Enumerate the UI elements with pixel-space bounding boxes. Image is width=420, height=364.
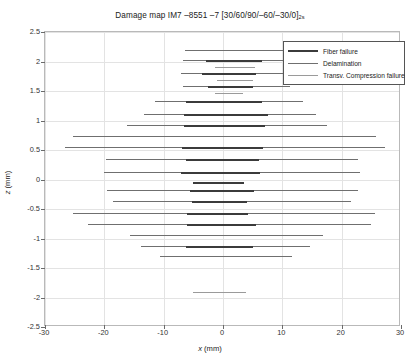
damage-segment-trans <box>215 67 255 68</box>
legend-swatch-icon <box>288 50 318 52</box>
y-axis-tick <box>41 239 45 240</box>
chart-title-text: Damage map IM7 –8551 –7 [30/60/90/–60/–3… <box>115 11 298 20</box>
damage-segment-fiber <box>208 86 253 88</box>
x-axis-title: x (mm) <box>0 344 420 353</box>
damage-segment-fiber <box>202 73 257 75</box>
y-axis-tick <box>41 32 45 33</box>
damage-segment-fiber <box>193 182 244 184</box>
legend-label: Transv. Compression failure <box>323 72 405 79</box>
y-tick-label: -2 <box>33 292 40 301</box>
x-tick-label: 30 <box>396 328 404 337</box>
y-axis-tick <box>41 91 45 92</box>
y-axis-tick <box>41 298 45 299</box>
x-tick-label: -20 <box>98 328 109 337</box>
chart-title: Damage map IM7 –8551 –7 [30/60/90/–60/–3… <box>0 11 420 20</box>
damage-segment-fiber <box>206 60 262 62</box>
legend-label: Fiber failure <box>323 48 358 55</box>
legend: Fiber failureDelaminationTransv. Compres… <box>283 41 405 85</box>
legend-label: Delamination <box>323 60 361 67</box>
y-axis-tick <box>41 62 45 63</box>
y-tick-label: 1.5 <box>30 86 40 95</box>
y-tick-label: 2 <box>36 56 40 65</box>
damage-segment-fiber <box>182 147 263 149</box>
damage-segment-delam <box>73 136 376 137</box>
x-tick-label: 20 <box>337 328 345 337</box>
y-axis-tick <box>41 180 45 181</box>
damage-segment-delam <box>160 256 292 257</box>
y-tick-label: 0 <box>36 174 40 183</box>
y-tick-label: 0.5 <box>30 145 40 154</box>
y-axis-tick <box>41 121 45 122</box>
y-tick-label: 2.5 <box>30 27 40 36</box>
damage-segment-fiber <box>186 246 253 248</box>
damage-segment-fiber <box>181 172 260 174</box>
y-tick-label: 1 <box>36 115 40 124</box>
damage-segment-trans <box>217 80 253 81</box>
legend-item-delam: Delamination <box>288 57 401 69</box>
damage-segment-fiber <box>184 114 268 116</box>
damage-segment-fiber <box>187 224 255 226</box>
y-axis-tick <box>41 268 45 269</box>
y-axis-tick <box>41 150 45 151</box>
damage-segment-fiber <box>190 190 254 192</box>
y-axis-tick <box>41 209 45 210</box>
legend-swatch-icon <box>288 63 318 64</box>
damage-segment-fiber <box>184 125 264 127</box>
legend-item-trans: Transv. Compression failure <box>288 69 401 81</box>
damage-segment-delam <box>130 235 323 236</box>
x-tick-label: 10 <box>277 328 285 337</box>
damage-segment-fiber <box>186 101 263 103</box>
damage-map-figure: Damage map IM7 –8551 –7 [30/60/90/–60/–3… <box>0 0 420 364</box>
x-tick-label: -30 <box>39 328 50 337</box>
y-tick-label: -1 <box>33 233 40 242</box>
damage-segment-fiber <box>187 213 248 215</box>
y-tick-label: -0.5 <box>27 204 40 213</box>
x-tick-label: 0 <box>220 328 224 337</box>
damage-segment-trans <box>215 93 242 94</box>
damage-segment-fiber <box>192 201 247 203</box>
damage-segment-fiber <box>186 159 260 161</box>
x-tick-label: -10 <box>157 328 168 337</box>
legend-swatch-icon <box>288 75 318 76</box>
legend-item-fiber: Fiber failure <box>288 45 401 57</box>
y-axis-title: z (mm) <box>3 153 12 213</box>
damage-segment-delam <box>185 50 291 51</box>
y-tick-label: -1.5 <box>27 263 40 272</box>
chart-title-subscript: 2s <box>299 14 305 20</box>
x-axis-tick-labels: -30-20-100102030 <box>44 328 400 342</box>
damage-segment-trans <box>193 292 246 293</box>
